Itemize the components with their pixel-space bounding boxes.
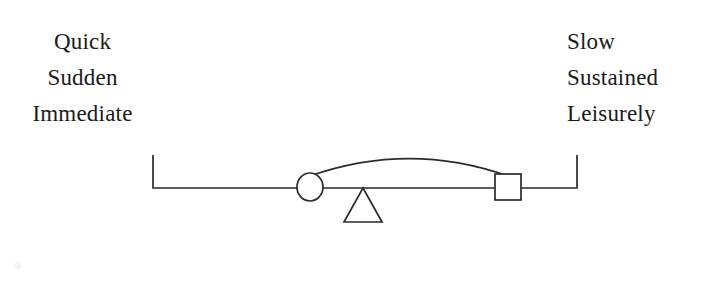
left-pole-line-3: Immediate — [0, 96, 165, 132]
right-pole-line-3: Leisurely — [567, 96, 714, 132]
square-marker — [495, 174, 521, 200]
figure-canvas: Quick Sudden Immediate Slow Sustained Le… — [0, 0, 714, 299]
scan-artifact-speck — [14, 262, 21, 269]
circle-marker — [297, 173, 323, 201]
connecting-arc — [310, 159, 508, 176]
right-pole-line-2: Sustained — [567, 60, 714, 96]
fulcrum-triangle — [344, 188, 382, 222]
left-pole-line-1: Quick — [0, 24, 165, 60]
left-pole-labels: Quick Sudden Immediate — [0, 24, 165, 132]
right-pole-line-1: Slow — [567, 24, 714, 60]
balance-beam — [153, 155, 577, 188]
left-pole-line-2: Sudden — [0, 60, 165, 96]
right-pole-labels: Slow Sustained Leisurely — [567, 24, 714, 132]
